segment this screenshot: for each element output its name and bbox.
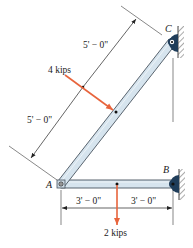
pin-a (57, 180, 65, 188)
dim-ab-left: 3' − 0" (76, 196, 101, 206)
dim-ac-upper: 5' − 0" (83, 40, 108, 50)
label-load-4kips: 4 kips (48, 65, 71, 75)
pin-support-b (169, 175, 179, 193)
load-arrow-4kips (65, 75, 113, 110)
label-b: B (163, 164, 169, 175)
frame-diagram: C B A 4 kips 2 kips 5' − 0" 5' − 0" 3' −… (0, 0, 193, 248)
wall-b (179, 169, 185, 200)
label-a: A (45, 179, 53, 190)
label-load-2kips: 2 kips (104, 228, 127, 238)
load-point-ac (115, 111, 118, 114)
wall-c (178, 26, 184, 58)
label-c: C (165, 23, 172, 34)
dim-ac-lower: 5' − 0" (27, 115, 52, 125)
dim-ab-right: 3' − 0" (131, 196, 156, 206)
